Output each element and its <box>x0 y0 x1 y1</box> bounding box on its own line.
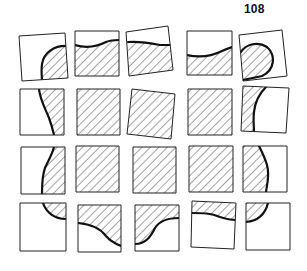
puzzle-tile-r2c3 <box>127 89 175 139</box>
puzzle-tile-r1c5 <box>239 30 287 81</box>
hatched-region <box>188 89 232 135</box>
tile-grid <box>19 26 290 252</box>
puzzle-tile-r3c5 <box>243 146 287 192</box>
puzzle-tile-r3c3 <box>133 147 176 193</box>
puzzle-tile-r1c2 <box>75 31 119 76</box>
puzzle-tile-r2c4 <box>188 89 232 135</box>
puzzle-tile-r3c4 <box>189 146 233 192</box>
hatched-region <box>127 89 175 139</box>
hatched-region <box>76 146 119 192</box>
puzzle-tile-r2c2 <box>77 89 120 135</box>
puzzle-tile-r4c1 <box>20 203 66 251</box>
puzzle-tile-r1c4 <box>187 31 232 75</box>
puzzle-tile-r1c1 <box>19 33 68 81</box>
puzzle-tile-r4c3 <box>135 205 179 251</box>
puzzle-tile-r4c2 <box>78 205 121 252</box>
puzzle-tile-r4c5 <box>246 203 290 250</box>
puzzle-tile-r3c2 <box>76 146 119 192</box>
puzzle-figure <box>0 0 307 271</box>
hatched-region <box>133 147 176 193</box>
puzzle-tile-r2c1 <box>20 89 64 135</box>
hatched-region <box>189 146 233 192</box>
puzzle-tile-r1c3 <box>126 26 173 76</box>
puzzle-tile-r2c5 <box>241 86 289 133</box>
hatched-region <box>77 89 120 135</box>
puzzle-tile-r3c1 <box>21 147 65 194</box>
puzzle-tile-r4c4 <box>191 201 236 249</box>
